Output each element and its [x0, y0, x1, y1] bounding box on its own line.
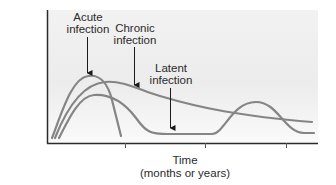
latent-infection-label: Latent infection — [146, 62, 196, 86]
acute-label-line1: Acute — [64, 11, 112, 23]
acute-label-line2: infection — [64, 23, 112, 35]
x-axis-label: Time (months or years) — [130, 154, 240, 180]
chronic-infection-label: Chronic infection — [110, 22, 160, 46]
chronic-label-line1: Chronic — [110, 22, 160, 34]
chronic-label-line2: infection — [110, 34, 160, 46]
x-axis-label-line2: (months or years) — [130, 167, 240, 180]
acute-infection-label: Acute infection — [64, 11, 112, 35]
latent-label-line2: infection — [146, 74, 196, 86]
latent-label-line1: Latent — [146, 62, 196, 74]
x-axis-label-line1: Time — [130, 154, 240, 167]
infection-curves-figure: Acute infection Chronic infection Latent… — [0, 0, 336, 185]
